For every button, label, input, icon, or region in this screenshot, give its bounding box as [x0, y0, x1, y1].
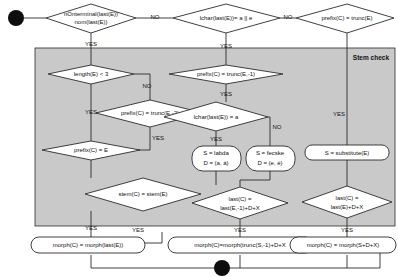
edge-label-yes-prefix-e2: YES: [152, 135, 164, 141]
edge-label-yes-bottom-right: YES: [341, 227, 353, 233]
decision-nonterminal[interactable]: [46, 4, 136, 33]
action-s-substitute[interactable]: [305, 145, 389, 160]
decision-lchar-ae[interactable]: [173, 4, 280, 33]
start-node: [8, 10, 24, 26]
action-morph-right[interactable]: [290, 237, 396, 253]
edge-label-yes-2: YES: [220, 43, 232, 49]
edge-label-no-2: NO: [284, 14, 293, 20]
edge-label-yes-1: YES: [85, 41, 97, 47]
edge-morph-left-link: [145, 232, 162, 243]
edge-label-yes-lchar-a: YES: [210, 136, 222, 142]
edge-label-yes-stem: YES: [85, 225, 97, 231]
edge-label-no-1: NO: [151, 14, 160, 20]
flowchart-canvas: Stem check: [0, 0, 398, 278]
edge-label-yes-bottom-left: YES: [132, 227, 144, 233]
edge-label-no-length: NO: [143, 83, 152, 89]
end-node: [214, 260, 230, 276]
action-s-fecske[interactable]: [246, 146, 295, 171]
edge-label-yes-bottom-mid: YES: [234, 227, 246, 233]
action-s-labda[interactable]: [192, 146, 241, 171]
edge-label-no-lchar-a: NO: [273, 124, 282, 130]
edge-label-yes-length: YES: [85, 109, 97, 115]
action-morph-left[interactable]: [31, 237, 145, 253]
edge-bottom-bus-left: [91, 252, 380, 268]
decision-prefix-trunc-e[interactable]: [296, 4, 394, 33]
edge-label-yes-prefix-trunc1: YES: [220, 91, 232, 97]
edge-label-yes-right-col: YES: [333, 111, 345, 117]
stem-check-panel-label: Stem check: [353, 54, 390, 61]
